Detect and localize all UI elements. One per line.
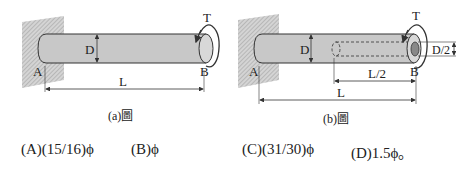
figure-a: T D A B L (a)圖 (22, 10, 219, 123)
end-b-label-a: B (200, 64, 209, 79)
option-d[interactable]: (D)1.5ϕ。 (351, 141, 413, 162)
bore-opening-b (411, 42, 419, 56)
caption-a: (a)圖 (108, 109, 133, 123)
length-label-b: L (337, 85, 345, 100)
inner-diameter-label-b: D/2 (432, 43, 450, 57)
length-label-a: L (119, 74, 127, 89)
diameter-label-b: D (300, 42, 309, 57)
option-a[interactable]: (A)(15/16)ϕ (21, 141, 94, 158)
solid-shaft-a (38, 34, 206, 63)
option-b[interactable]: (B)ϕ (131, 141, 159, 158)
option-c[interactable]: (C)(31/30)ϕ (242, 141, 314, 158)
diameter-label-a: D (85, 42, 94, 57)
half-length-label-b: L/2 (368, 66, 386, 81)
caption-b: (b)圖 (323, 112, 349, 126)
end-a-label-a: A (33, 64, 43, 79)
figure-b: T D D/2 A B L/2 L (b)圖 (238, 8, 456, 126)
shaft-end-b-a (199, 34, 213, 63)
end-a-label-b: A (249, 64, 259, 79)
end-b-label-b: B (410, 64, 419, 79)
torque-label-b: T (412, 8, 420, 23)
torque-label-a: T (203, 10, 211, 25)
